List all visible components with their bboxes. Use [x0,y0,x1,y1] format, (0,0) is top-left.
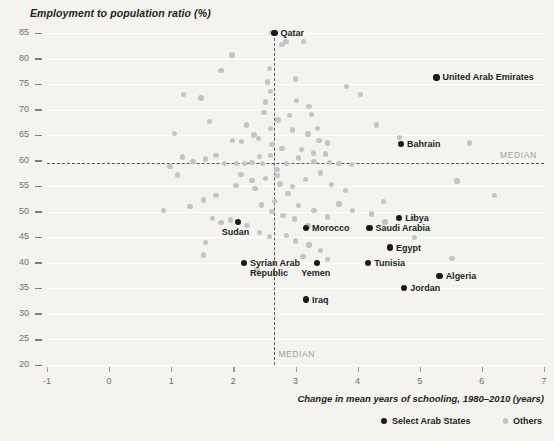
data-point-other[interactable] [213,193,218,198]
data-point-arab-state[interactable] [398,141,404,147]
data-point-other[interactable] [309,112,314,117]
data-point-arab-state[interactable] [235,219,241,225]
data-point-other[interactable] [305,131,310,136]
data-point-other[interactable] [252,186,257,191]
data-point-other[interactable] [492,193,497,198]
data-point-other[interactable] [175,172,180,177]
data-point-arab-state[interactable] [271,30,277,36]
data-point-other[interactable] [190,159,195,164]
data-point-other[interactable] [336,161,341,166]
data-point-other[interactable] [374,122,379,127]
data-point-other[interactable] [201,197,206,202]
data-point-other[interactable] [256,136,261,141]
data-point-other[interactable] [213,153,218,158]
data-point-other[interactable] [303,177,308,182]
data-point-other[interactable] [274,167,279,172]
data-point-other[interactable] [369,211,374,216]
data-point-other[interactable] [275,117,280,122]
data-point-other[interactable] [201,252,206,257]
data-point-other[interactable] [467,140,472,145]
data-point-other[interactable] [296,155,301,160]
data-point-arab-state[interactable] [401,285,407,291]
data-point-other[interactable] [230,138,235,143]
data-point-arab-state[interactable] [314,260,320,266]
data-point-other[interactable] [349,162,354,167]
data-point-other[interactable] [412,235,417,240]
data-point-other[interactable] [238,172,243,177]
data-point-other[interactable] [299,147,304,152]
data-point-other[interactable] [300,254,305,259]
data-point-other[interactable] [290,127,295,132]
data-point-other[interactable] [263,176,268,181]
data-point-other[interactable] [259,202,264,207]
data-point-arab-state[interactable] [387,244,393,250]
data-point-other[interactable] [344,84,349,89]
data-point-arab-state[interactable] [303,296,309,302]
data-point-other[interactable] [293,76,298,81]
data-point-other[interactable] [325,214,330,219]
data-point-other[interactable] [290,184,295,189]
data-point-other[interactable] [279,42,284,47]
data-point-other[interactable] [261,110,266,115]
data-point-other[interactable] [268,126,273,131]
data-point-other[interactable] [203,156,208,161]
data-point-other[interactable] [222,161,227,166]
data-point-other[interactable] [268,153,273,158]
data-point-other[interactable] [210,216,215,221]
data-point-other[interactable] [318,248,323,253]
data-point-other[interactable] [228,217,233,222]
data-point-other[interactable] [180,154,185,159]
data-point-arab-state[interactable] [436,273,442,279]
data-point-other[interactable] [315,126,320,131]
data-point-arab-state[interactable] [241,260,247,266]
data-point-other[interactable] [242,161,247,166]
data-point-other[interactable] [267,66,272,71]
data-point-other[interactable] [296,203,301,208]
data-point-other[interactable] [269,209,274,214]
data-point-other[interactable] [306,104,311,109]
data-point-arab-state[interactable] [396,215,402,221]
data-point-other[interactable] [454,178,459,183]
data-point-other[interactable] [449,256,454,261]
data-point-other[interactable] [244,122,249,127]
data-point-other[interactable] [316,138,321,143]
data-point-other[interactable] [311,150,316,155]
data-point-other[interactable] [257,230,262,235]
data-point-other[interactable] [249,178,254,183]
data-point-arab-state[interactable] [303,225,309,231]
data-point-other[interactable] [187,204,192,209]
data-point-arab-state[interactable] [365,260,371,266]
data-point-other[interactable] [285,191,290,196]
data-point-other[interactable] [267,234,272,239]
data-point-other[interactable] [306,242,311,247]
data-point-other[interactable] [279,146,284,151]
data-point-other[interactable] [311,208,316,213]
data-point-other[interactable] [343,188,348,193]
data-point-other[interactable] [265,79,270,84]
data-point-other[interactable] [249,160,254,165]
data-point-other[interactable] [292,216,297,221]
data-point-other[interactable] [325,140,330,145]
data-point-other[interactable] [239,139,244,144]
data-point-other[interactable] [167,164,172,169]
data-point-other[interactable] [268,89,273,94]
data-point-other[interactable] [358,92,363,97]
data-point-other[interactable] [203,240,208,245]
data-point-other[interactable] [233,183,238,188]
data-point-other[interactable] [280,213,285,218]
data-point-other[interactable] [277,181,282,186]
data-point-other[interactable] [274,173,279,178]
data-point-other[interactable] [293,238,298,243]
data-point-other[interactable] [263,99,268,104]
data-point-other[interactable] [198,95,203,100]
data-point-other[interactable] [229,52,234,57]
data-point-other[interactable] [272,199,277,204]
data-point-other[interactable] [381,199,386,204]
data-point-arab-state[interactable] [366,225,372,231]
data-point-other[interactable] [284,161,289,166]
data-point-other[interactable] [294,98,299,103]
data-point-other[interactable] [327,160,332,165]
data-point-other[interactable] [336,201,341,206]
data-point-other[interactable] [397,135,402,140]
data-point-other[interactable] [218,68,223,73]
